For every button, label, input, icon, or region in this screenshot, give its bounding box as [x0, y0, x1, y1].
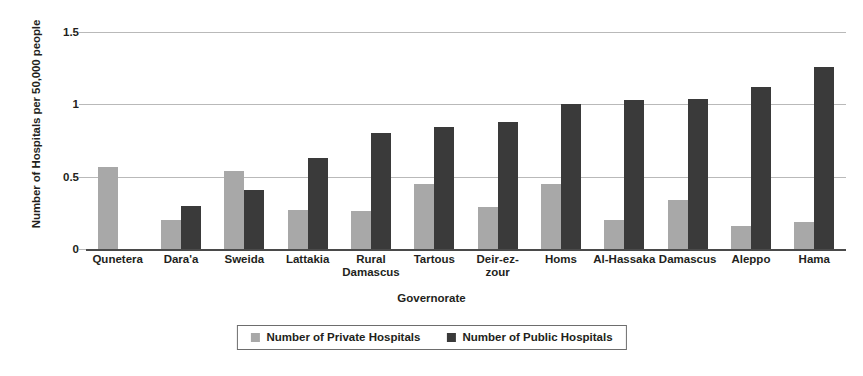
- bar-group: [276, 32, 339, 249]
- y-axis-tick-mark: [79, 32, 86, 33]
- x-axis-tick-label: Qunetera: [86, 253, 149, 279]
- x-axis-tick-label: Aleppo: [719, 253, 782, 279]
- bar: [98, 167, 118, 249]
- bar-group: [529, 32, 592, 249]
- bar-group: [593, 32, 656, 249]
- bar: [161, 220, 181, 249]
- legend-item[interactable]: Number of Private Hospitals: [250, 331, 420, 343]
- bar: [288, 210, 308, 249]
- bar: [371, 133, 391, 249]
- bar: [814, 67, 834, 249]
- bar-group: [403, 32, 466, 249]
- bar: [541, 184, 561, 249]
- legend-label: Number of Public Hospitals: [462, 331, 612, 343]
- legend-swatch-icon: [446, 333, 455, 342]
- y-axis-tick-label: 1: [73, 98, 79, 110]
- y-axis-tick-label: 1.5: [63, 26, 79, 38]
- bar: [688, 99, 708, 249]
- x-axis-tick-label: RuralDamascus: [339, 253, 402, 279]
- bar: [244, 190, 264, 249]
- bar: [351, 211, 371, 249]
- bar: [224, 171, 244, 249]
- bar: [794, 222, 814, 249]
- bar-group: [213, 32, 276, 249]
- bar-group: [149, 32, 212, 249]
- bar-group: [656, 32, 719, 249]
- legend-label: Number of Private Hospitals: [266, 331, 420, 343]
- bar: [624, 100, 644, 249]
- x-axis-line: [86, 249, 846, 251]
- x-axis-tick-label: Al-Hassaka: [593, 253, 656, 279]
- legend-item[interactable]: Number of Public Hospitals: [446, 331, 612, 343]
- x-axis-tick-label: Lattakia: [276, 253, 339, 279]
- bar-group: [339, 32, 402, 249]
- x-axis-title: Governorate: [0, 292, 863, 304]
- x-axis-tick-label: Dara'a: [149, 253, 212, 279]
- bar-group: [719, 32, 782, 249]
- bar: [751, 87, 771, 249]
- bar-groups: [86, 32, 846, 249]
- legend-swatch-icon: [250, 333, 259, 342]
- bar: [668, 200, 688, 249]
- x-axis-tick-label: Homs: [529, 253, 592, 279]
- x-axis-tick-label: Sweida: [213, 253, 276, 279]
- x-axis-tick-label: Hama: [783, 253, 846, 279]
- bar-group: [466, 32, 529, 249]
- bar: [498, 122, 518, 249]
- bar: [604, 220, 624, 249]
- y-axis-tick-mark: [79, 249, 86, 250]
- bar: [414, 184, 434, 249]
- bar: [478, 207, 498, 249]
- x-axis-tick-label: Deir-ez-zour: [466, 253, 529, 279]
- y-axis-tick-label: 0: [73, 243, 79, 255]
- chart-legend: Number of Private HospitalsNumber of Pub…: [236, 325, 626, 350]
- x-axis-tick-label: Tartous: [403, 253, 466, 279]
- y-axis-tick-mark: [79, 177, 86, 178]
- x-axis-tick-labels: QuneteraDara'aSweidaLattakiaRuralDamascu…: [86, 253, 846, 279]
- y-axis-tick-mark: [79, 104, 86, 105]
- y-axis-tick-label: 0.5: [63, 171, 79, 183]
- bar-group: [86, 32, 149, 249]
- bar: [561, 104, 581, 249]
- y-axis-title: Number of Hospitals per 50,000 people: [30, 9, 42, 239]
- x-axis-tick-label: Damascus: [656, 253, 719, 279]
- bar-group: [783, 32, 846, 249]
- bar: [434, 127, 454, 249]
- plot-area: 00.511.5: [86, 32, 846, 249]
- bar: [731, 226, 751, 249]
- bar: [181, 206, 201, 249]
- bar-chart: Number of Hospitals per 50,000 people 00…: [0, 0, 863, 376]
- bar: [308, 158, 328, 249]
